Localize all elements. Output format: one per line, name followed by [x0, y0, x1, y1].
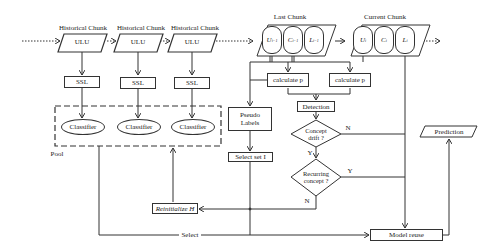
reinitialize-box: Reinitialize H — [152, 203, 198, 214]
last-chunk-title: Last Chunk — [270, 13, 310, 21]
historical-chunk-data-3: ULU — [172, 38, 212, 46]
historical-chunk-title-1: Historical Chunk — [56, 24, 110, 32]
concept-drift-decision: Concept drift ? — [299, 127, 333, 141]
historical-chunk-title-2: Historical Chunk — [114, 24, 168, 32]
historical-chunk-data-2: ULU — [118, 38, 158, 46]
model-reuse-box: Model reuse — [370, 229, 443, 241]
current-chunk-l: Li — [395, 26, 415, 54]
concept-drift-flowchart: Historical Chunk Historical Chunk Histor… — [0, 0, 499, 252]
drift-yes-label: Y — [306, 149, 314, 157]
pseudo-labels-box: Pseudo Labels — [228, 107, 272, 131]
historical-chunk-data-1: ULU — [62, 38, 102, 46]
recurring-concept-decision: Recurring concept ? — [296, 170, 336, 184]
recurring-no-label: N — [303, 197, 311, 205]
select-edge-label: Select — [179, 231, 201, 239]
pool-label: Pool — [48, 150, 66, 158]
classifier-1: Classifier — [61, 119, 105, 135]
prediction-output: Prediction — [426, 128, 472, 136]
current-chunk-u: Ui — [353, 26, 373, 54]
last-chunk-c: Ci−1 — [283, 26, 303, 54]
select-set-box: Select set I — [228, 152, 273, 162]
drift-no-label: N — [344, 124, 352, 132]
last-c-sup: i−1 — [292, 38, 298, 43]
recurring-yes-label: Y — [346, 167, 354, 175]
calculate-p-left: calculate p — [267, 73, 309, 87]
ssl-box-2: SSL — [120, 77, 156, 89]
last-l-sup: i−1 — [313, 38, 319, 43]
last-chunk-l: Li−1 — [304, 26, 324, 54]
calculate-p-right: calculate p — [329, 73, 371, 87]
classifier-2: Classifier — [117, 119, 161, 135]
cur-c-sup: i — [386, 38, 387, 43]
cur-l-sup: i — [406, 38, 407, 43]
last-chunk-u: Ui−1 — [262, 26, 282, 54]
detection-box: Detection — [297, 101, 335, 112]
cur-u-sup: i — [365, 38, 366, 43]
current-chunk-title: Current Chunk — [360, 13, 410, 21]
last-u-sup: i−1 — [272, 38, 278, 43]
ssl-box-1: SSL — [64, 76, 100, 88]
historical-chunk-title-3: Historical Chunk — [168, 24, 222, 32]
ssl-box-3: SSL — [174, 77, 210, 89]
current-chunk-c: Ci — [374, 26, 394, 54]
classifier-3: Classifier — [171, 119, 215, 135]
